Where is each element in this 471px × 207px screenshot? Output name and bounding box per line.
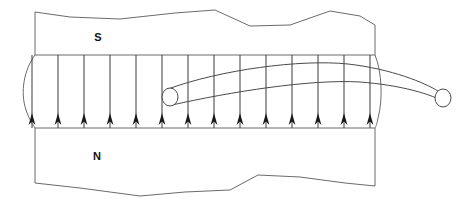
north-pole-label: N	[93, 150, 101, 162]
gap-left-edge	[23, 55, 35, 128]
wire-right-end-cap	[435, 89, 451, 107]
gap-right-edge	[375, 55, 381, 128]
magnet-field-diagram: S N	[0, 0, 471, 207]
diagram-canvas: S N	[0, 0, 471, 207]
magnetic-field-lines	[29, 55, 374, 128]
conductor-wire	[162, 63, 451, 107]
wire-left-end-cap	[162, 88, 178, 106]
south-pole-label: S	[94, 31, 101, 43]
north-pole-block	[35, 128, 375, 196]
wire-bottom-edge	[172, 82, 446, 105]
south-pole-block	[35, 10, 375, 55]
